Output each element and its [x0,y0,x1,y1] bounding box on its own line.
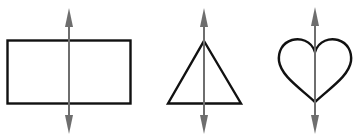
triangle-figure [168,8,241,134]
arrow-down-icon [65,115,73,134]
heart-figure [279,7,351,134]
rectangle-figure [8,8,131,134]
arrow-down-icon [200,115,208,134]
arrow-up-icon [65,8,73,27]
arrow-up-icon [200,8,208,27]
arrow-down-icon [311,115,319,134]
symmetry-diagram [0,0,361,136]
arrow-up-icon [311,7,319,26]
